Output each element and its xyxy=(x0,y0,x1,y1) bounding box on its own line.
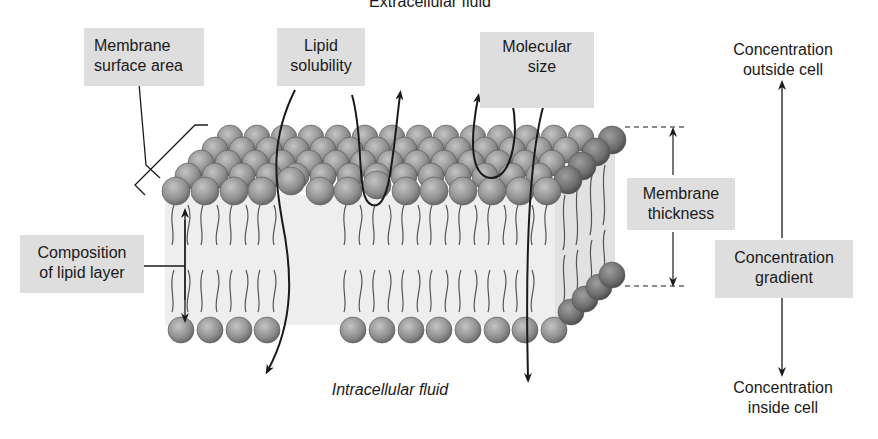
upper-leaflet-heads xyxy=(162,125,626,205)
membrane-thickness-label: Membrane thickness xyxy=(627,178,735,230)
membrane-surface-area-label: Membrane surface area xyxy=(84,28,204,86)
concentration-gradient-label: Concentration gradient xyxy=(715,240,853,298)
lipid-solubility-label: Lipid solubility xyxy=(277,28,365,86)
intracellular-fluid-label: Intracellular fluid xyxy=(300,380,480,400)
extracellular-fluid-label: Extracellular fluid xyxy=(320,0,540,12)
membrane-diffusion-diagram: Extracellular fluid Membrane surface are… xyxy=(0,0,878,439)
concentration-outside-label: Concentration outside cell xyxy=(705,40,861,80)
molecular-size-label: Molecular size xyxy=(480,32,594,108)
composition-lipid-layer-label: Composition of lipid layer xyxy=(20,235,144,293)
concentration-inside-label: Concentration inside cell xyxy=(705,378,861,418)
